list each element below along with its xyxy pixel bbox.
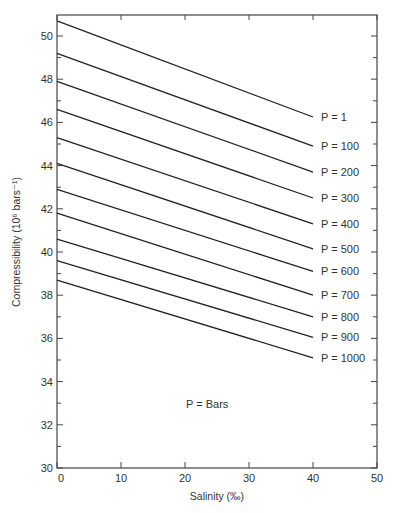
y-tick-label: 38 — [41, 289, 53, 301]
series-line — [57, 81, 313, 172]
x-tick-label: 10 — [115, 472, 127, 484]
series-label: P = 100 — [321, 140, 359, 152]
series-lines — [57, 21, 313, 358]
y-tick-label: 50 — [41, 30, 53, 42]
x-tick-label: 30 — [243, 472, 255, 484]
y-axis-title: Compressibility (10⁶ bars⁻¹) — [10, 177, 22, 307]
series-line — [57, 163, 313, 248]
y-tick-label: 44 — [41, 160, 53, 172]
series-line — [57, 280, 313, 358]
series-label: P = 1000 — [321, 352, 365, 364]
y-tick-label: 32 — [41, 419, 53, 431]
x-tick-label: 50 — [371, 472, 383, 484]
series-line — [57, 109, 313, 198]
series-labels: P = 1P = 100P = 200P = 300P = 400P = 500… — [321, 111, 365, 364]
series-label: P = 700 — [321, 289, 359, 301]
y-tick-label: 34 — [41, 376, 53, 388]
x-axis-title: Salinity (‰) — [190, 490, 244, 502]
series-line — [57, 261, 313, 338]
y-tick-label: 30 — [41, 462, 53, 474]
series-label: P = 200 — [321, 166, 359, 178]
series-label: P = 500 — [321, 243, 359, 255]
series-line — [57, 138, 313, 224]
series-label: P = 600 — [321, 265, 359, 277]
y-tick-label: 42 — [41, 203, 53, 215]
x-tick-label: 40 — [307, 472, 319, 484]
series-label: P = 400 — [321, 218, 359, 230]
series-label: P = 800 — [321, 311, 359, 323]
series-line — [57, 21, 313, 117]
y-tick-label: 48 — [41, 73, 53, 85]
compressibility-chart: 3032343638404244464850 01020304050 P = 1… — [0, 0, 394, 513]
series-label: P = 300 — [321, 192, 359, 204]
series-line — [57, 213, 313, 295]
series-label: P = 1 — [321, 111, 347, 123]
series-label: P = 900 — [321, 331, 359, 343]
series-line — [57, 53, 313, 146]
series-line — [57, 239, 313, 317]
pressure-unit-annotation: P = Bars — [186, 398, 229, 410]
y-tick-label: 40 — [41, 246, 53, 258]
series-line — [57, 189, 313, 271]
y-tick-label: 36 — [41, 332, 53, 344]
x-tick-label: 20 — [179, 472, 191, 484]
y-tick-label: 46 — [41, 116, 53, 128]
x-tick-label: 0 — [58, 472, 64, 484]
